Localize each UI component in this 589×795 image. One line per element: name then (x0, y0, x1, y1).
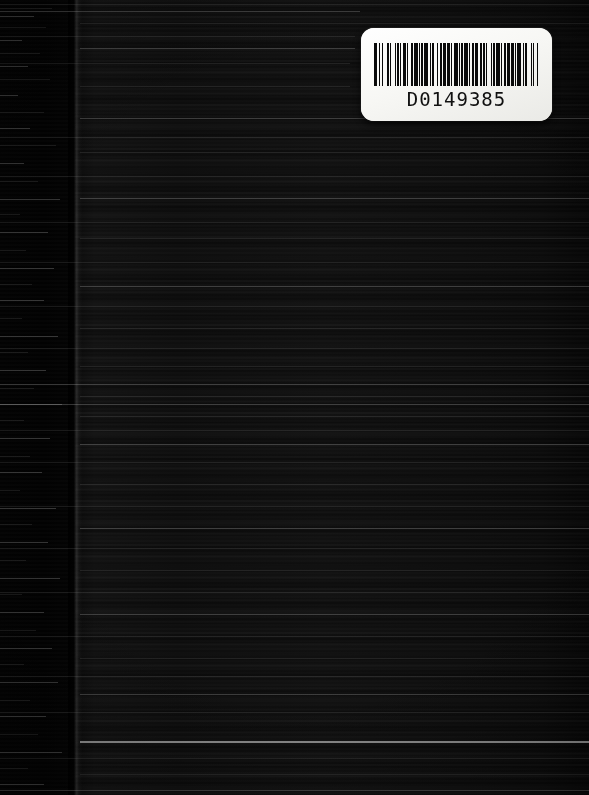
barcode-space (538, 43, 541, 86)
scanned-book-cover-page: D0149385 (0, 0, 589, 795)
barcode-label[interactable]: D0149385 (361, 28, 552, 121)
barcode-number-text: D0149385 (361, 88, 552, 110)
gutter-field (0, 0, 75, 795)
barcode-bars (374, 43, 542, 86)
